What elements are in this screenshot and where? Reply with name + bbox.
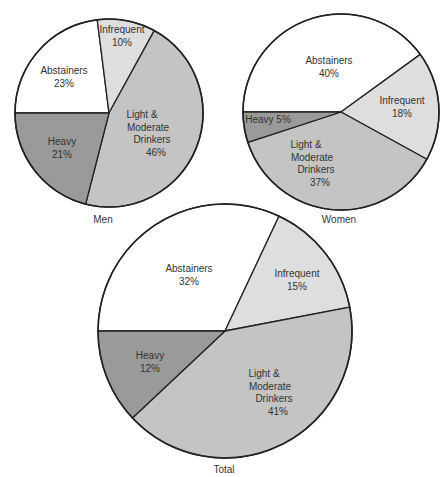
caption-total: Total — [213, 464, 234, 475]
pie-charts-figure: Abstainers23%Infrequent10%Light &Moderat… — [0, 0, 444, 477]
slice-label-heavy: Heavy 5% — [245, 114, 291, 125]
pie-chart-total: Abstainers32%Infrequent15%Light &Moderat… — [98, 204, 352, 458]
caption-men: Men — [93, 214, 112, 225]
caption-women: Women — [322, 214, 356, 225]
slice-label-heavy: Heavy12% — [136, 350, 164, 374]
slice-label-heavy: Heavy21% — [48, 136, 76, 160]
pie-chart-women: Abstainers40%Infrequent18%Light &Moderat… — [243, 14, 439, 210]
pie-chart-men: Abstainers23%Infrequent10%Light &Moderat… — [15, 19, 203, 207]
